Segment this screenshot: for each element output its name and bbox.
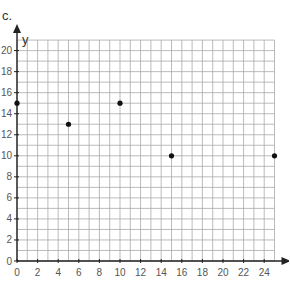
y-tick-label: 8: [6, 171, 12, 182]
data-point: [272, 153, 277, 158]
data-point: [66, 122, 71, 127]
x-tick-label: 24: [259, 267, 271, 278]
y-tick-label: 2: [6, 234, 12, 245]
y-tick-label: 10: [1, 150, 13, 161]
x-tick-label: 20: [217, 267, 229, 278]
y-axis-label: y: [22, 32, 29, 47]
grid: [17, 40, 275, 261]
x-tick-label: 12: [135, 267, 147, 278]
y-tick-label: 14: [1, 108, 13, 119]
y-axis-arrow-icon: [13, 24, 21, 33]
scatter-chart: c. 0246810121416182022240246810121416182…: [0, 0, 289, 288]
x-tick-label: 22: [238, 267, 250, 278]
data-point: [117, 101, 122, 106]
x-tick-label: 6: [76, 267, 82, 278]
problem-label: c.: [2, 8, 12, 23]
data-point: [14, 101, 19, 106]
data-points: [14, 101, 277, 159]
x-tick-label: 18: [197, 267, 209, 278]
x-tick-label: 0: [14, 267, 20, 278]
x-tick-label: 4: [55, 267, 61, 278]
y-tick-label: 18: [1, 66, 13, 77]
x-tick-label: 14: [156, 267, 168, 278]
y-tick-label: 4: [6, 213, 12, 224]
y-tick-label: 20: [1, 45, 13, 56]
y-tick-label: 0: [6, 256, 12, 267]
tick-labels: 02468101214161820222402468101214161820: [1, 45, 270, 278]
x-tick-label: 16: [176, 267, 188, 278]
x-tick-label: 10: [114, 267, 126, 278]
y-tick-label: 16: [1, 87, 13, 98]
y-tick-label: 12: [1, 129, 13, 140]
x-axis-arrow-icon: [282, 257, 290, 265]
x-tick-label: 8: [97, 267, 103, 278]
x-tick-label: 2: [35, 267, 41, 278]
data-point: [169, 153, 174, 158]
y-tick-label: 6: [6, 192, 12, 203]
